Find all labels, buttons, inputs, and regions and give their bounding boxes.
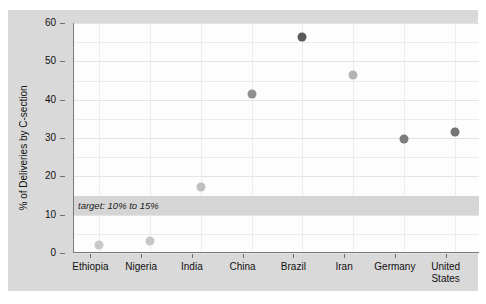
gridline-vertical: [252, 23, 253, 252]
data-point: [95, 241, 104, 250]
y-tick-mark: [60, 61, 65, 62]
y-axis-title: % of Deliveries by C-section: [18, 33, 30, 263]
y-tick-label: 10: [45, 210, 56, 220]
gridline-horizontal: [74, 23, 479, 24]
gridline-vertical: [353, 23, 354, 252]
y-tick-mark: [60, 176, 65, 177]
y-tick-label: 60: [45, 18, 56, 28]
plot-area: target: 10% to 15%: [73, 23, 479, 253]
y-tick-mark: [60, 253, 65, 254]
gridline-horizontal: [74, 42, 479, 43]
data-point: [298, 33, 307, 42]
y-tick-label: 20: [45, 171, 56, 181]
gridline-horizontal: [74, 253, 479, 254]
y-tick-mark: [60, 23, 65, 24]
gridline-horizontal: [74, 138, 479, 139]
x-tick-label: United States: [431, 261, 460, 284]
y-tick-mark: [60, 100, 65, 101]
gridline-vertical: [455, 23, 456, 252]
gridline-vertical: [99, 23, 100, 252]
data-point: [196, 182, 205, 191]
gridline-horizontal: [74, 61, 479, 62]
gridline-horizontal: [74, 215, 479, 216]
figure-panel: % of Deliveries by C-section 01020304050…: [8, 10, 478, 291]
gridline-horizontal: [74, 119, 479, 120]
gridline-horizontal: [74, 176, 479, 177]
y-tick-label: 40: [45, 95, 56, 105]
x-tick-label: Germany: [374, 261, 415, 273]
data-point: [247, 89, 256, 98]
gridline-horizontal: [74, 234, 479, 235]
y-tick-mark: [60, 138, 65, 139]
gridline-horizontal: [74, 100, 479, 101]
gridline-horizontal: [74, 81, 479, 82]
chart-screenshot: % of Deliveries by C-section 01020304050…: [0, 0, 486, 304]
gridline-vertical: [302, 23, 303, 252]
gridline-horizontal: [74, 157, 479, 158]
x-tick-label: India: [181, 261, 203, 273]
data-point: [399, 134, 408, 143]
x-tick-label: China: [230, 261, 256, 273]
x-tick-label: Ethiopia: [72, 261, 108, 273]
data-point: [450, 127, 459, 136]
y-tick-label: 30: [45, 133, 56, 143]
x-tick-label: Brazil: [281, 261, 306, 273]
y-tick-label: 0: [50, 248, 56, 258]
gridline-vertical: [150, 23, 151, 252]
data-point: [146, 236, 155, 245]
y-tick-label: 50: [45, 56, 56, 66]
y-tick-mark: [60, 215, 65, 216]
x-tick-label: Iran: [336, 261, 353, 273]
gridline-vertical: [201, 23, 202, 252]
x-tick-label: Nigeria: [125, 261, 157, 273]
data-point: [349, 70, 358, 79]
target-band-label: target: 10% to 15%: [78, 201, 159, 211]
